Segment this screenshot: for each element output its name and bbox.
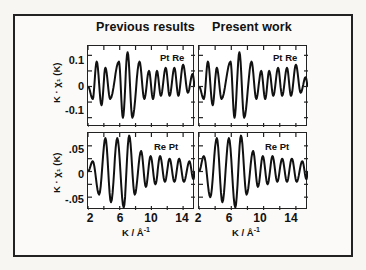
- ytick-top-mid: 0: [56, 80, 84, 92]
- edge-label: Pt Re: [160, 52, 184, 63]
- xtick-left-10: 10: [144, 211, 157, 225]
- waveform-present-rept: [199, 133, 308, 210]
- column-title-previous: Previous results: [96, 20, 195, 34]
- edge-label: Re Pt: [265, 141, 289, 152]
- x-axis-label-right: K / Å-1: [232, 226, 260, 238]
- waveform-previous-rept: [88, 133, 195, 210]
- xtick-left-6: 6: [117, 211, 124, 225]
- xtick-right-6: 6: [226, 211, 233, 225]
- ytick-bottom-hi: .05: [56, 143, 84, 155]
- xtick-right-2: 2: [195, 211, 202, 225]
- panel-present-ptre: Pt Re: [198, 45, 307, 126]
- panel-previous-rept: Re Pt: [87, 132, 194, 209]
- column-title-present: Present work: [212, 20, 292, 34]
- ytick-bottom-lo: -.05: [56, 193, 84, 205]
- x-axis-label-left: K / Å-1: [122, 226, 150, 238]
- ytick-top-lo: -0.1: [56, 104, 84, 116]
- xtick-right-10: 10: [253, 211, 266, 225]
- edge-label: Re Pt: [154, 141, 178, 152]
- ytick-bottom-mid: 0: [56, 168, 84, 180]
- xtick-right-14: 14: [284, 211, 297, 225]
- ytick-top-hi: 0.1: [56, 54, 84, 66]
- xtick-left-14: 14: [175, 211, 188, 225]
- panel-present-rept: Re Pt: [198, 132, 307, 209]
- edge-label: Pt Re: [273, 52, 297, 63]
- xtick-left-2: 2: [87, 211, 94, 225]
- panel-previous-ptre: Pt Re: [87, 45, 194, 126]
